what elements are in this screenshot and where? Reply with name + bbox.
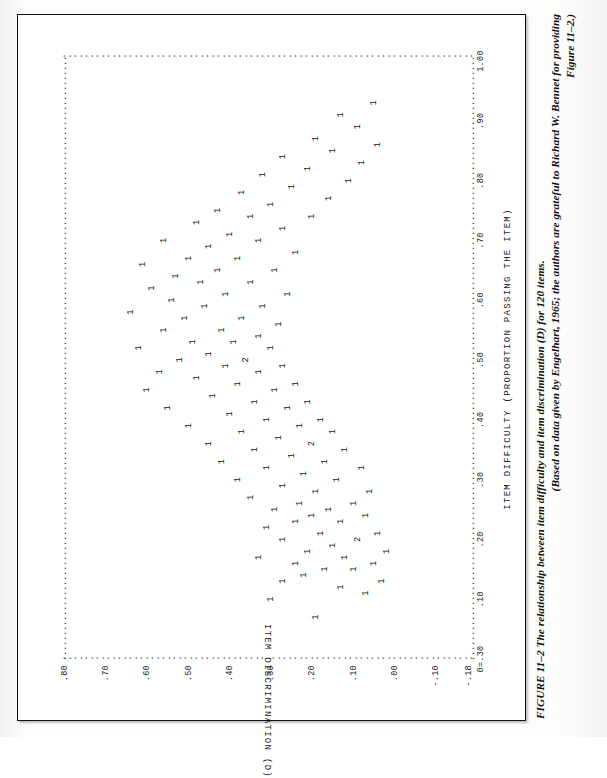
data-point-marker: 1: [271, 268, 280, 273]
axis-dot: .: [61, 281, 69, 286]
axis-dot: .: [469, 321, 477, 326]
data-point-marker: 1: [370, 561, 379, 566]
axis-dot: .: [61, 371, 69, 376]
axis-dot: .: [61, 421, 69, 426]
data-point-marker: 1: [205, 244, 214, 249]
axis-dot: .: [469, 441, 477, 446]
axis-dot: .: [469, 201, 477, 206]
axis-dot: .: [469, 211, 477, 216]
axis-dot: .: [61, 436, 69, 441]
data-point-marker: 1: [292, 561, 301, 566]
axis-dot: .: [469, 136, 477, 141]
axis-dot: .: [468, 654, 474, 662]
axis-dot: .: [469, 311, 477, 316]
axis-dot: .: [61, 126, 69, 131]
axis-dot: .: [61, 341, 69, 346]
axis-dot: .: [61, 311, 69, 316]
axis-dot: .: [61, 611, 69, 616]
data-point-marker: 1: [255, 555, 264, 560]
axis-dot: .: [61, 76, 69, 81]
data-point-marker: 1: [263, 525, 272, 530]
data-point-marker: 1: [156, 369, 165, 374]
data-point-marker: 1: [255, 369, 264, 374]
data-point-marker: 1: [135, 345, 144, 350]
data-point-marker: 1: [127, 310, 136, 315]
axis-dot: .: [61, 101, 69, 106]
data-point-marker: 1: [337, 112, 346, 117]
data-point-marker: 1: [172, 274, 181, 279]
axis-dot: .: [469, 611, 477, 616]
data-point-marker: 1: [250, 399, 259, 404]
axis-dot: .: [469, 326, 477, 331]
y-tick-label: .40: [225, 665, 235, 695]
y-tick-label: .10: [349, 665, 359, 695]
axis-dot: .: [469, 396, 477, 401]
data-point-marker: 1: [382, 549, 391, 554]
axis-dot: .: [61, 61, 69, 66]
axis-dot: .: [469, 131, 477, 136]
axis-dot: .: [61, 211, 69, 216]
axis-dot: .: [61, 136, 69, 141]
axis-dot: .: [61, 506, 69, 511]
data-point-marker: 1: [275, 435, 284, 440]
data-point-marker: 2: [353, 537, 362, 542]
data-point-marker: 1: [292, 250, 301, 255]
plot-rotation-wrapper: ........................................…: [17, 14, 524, 719]
axis-dot: .: [61, 241, 69, 246]
data-point-marker: 1: [217, 328, 226, 333]
axis-dot: .: [61, 386, 69, 391]
axis-dot: .: [469, 221, 477, 226]
data-point-marker: 1: [259, 172, 268, 177]
data-point-marker: 1: [246, 495, 255, 500]
axis-dot: .: [61, 286, 69, 291]
axis-dot: .: [469, 256, 477, 261]
axis-dot: .: [61, 546, 69, 551]
x-tick-label: .40: [476, 412, 486, 428]
data-point-marker: 1: [374, 531, 383, 536]
axis-dot: .: [61, 316, 69, 321]
data-point-marker: 1: [304, 166, 313, 171]
caption-line-3: Figure 11–2.): [563, 14, 578, 719]
axis-dot: .: [61, 541, 69, 546]
caption-line-1: FIGURE 11–2 The relationship between ite…: [533, 14, 548, 719]
axis-dot: .: [469, 281, 477, 286]
axis-dot: .: [61, 591, 69, 596]
axis-dot: .: [61, 256, 69, 261]
data-point-marker: 1: [279, 537, 288, 542]
axis-dot: .: [61, 66, 69, 71]
data-point-marker: 2: [242, 357, 251, 362]
data-point-marker: 1: [329, 543, 338, 548]
axis-dot: .: [469, 376, 477, 381]
axis-dot: .: [469, 526, 477, 531]
data-point-marker: 1: [222, 363, 231, 368]
data-point-marker: 1: [209, 393, 218, 398]
axis-dot: .: [61, 416, 69, 421]
data-point-marker: 1: [205, 441, 214, 446]
data-point-marker: 1: [147, 286, 156, 291]
axis-dot: .: [61, 376, 69, 381]
axis-dot: .: [61, 521, 69, 526]
axis-dot: .: [61, 406, 69, 411]
axis-dot: .: [469, 391, 477, 396]
plot-border-top: ........................................…: [61, 57, 69, 661]
x-tick-label: .80: [476, 173, 486, 189]
data-point-marker: 1: [246, 280, 255, 285]
axis-dot: .: [61, 531, 69, 536]
axis-dot: .: [469, 346, 477, 351]
y-tick-label: -.18: [464, 665, 474, 695]
axis-dot: .: [61, 71, 69, 76]
axis-dot: .: [469, 386, 477, 391]
axis-dot: .: [61, 626, 69, 631]
axis-dot: .: [61, 516, 69, 521]
axis-dot: .: [469, 456, 477, 461]
axis-dot: .: [61, 641, 69, 646]
data-point-marker: 1: [263, 417, 272, 422]
axis-dot: .: [61, 116, 69, 121]
axis-dot: .: [469, 616, 477, 621]
axis-dot: .: [61, 451, 69, 456]
axis-dot: .: [61, 106, 69, 111]
axis-dot: .: [469, 461, 477, 466]
axis-dot: .: [61, 356, 69, 361]
data-point-marker: 1: [222, 292, 231, 297]
